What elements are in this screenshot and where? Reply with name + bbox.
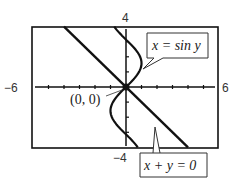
x-max-label: 6 [222, 81, 229, 95]
y-max-label: 4 [122, 11, 129, 25]
line-equation-label: x + y = 0 [143, 158, 196, 173]
y-min-label: −4 [113, 151, 127, 165]
sin-equation-label: x = sin y [151, 38, 201, 53]
x-min-label: −6 [4, 81, 18, 95]
graph: −6 6 4 −4 (0, 0) x = sin y x + y = 0 [0, 0, 242, 191]
intersection-point [123, 84, 130, 91]
callout-sin: x = sin y [143, 33, 208, 69]
origin-annotation: (0, 0) [70, 92, 101, 108]
